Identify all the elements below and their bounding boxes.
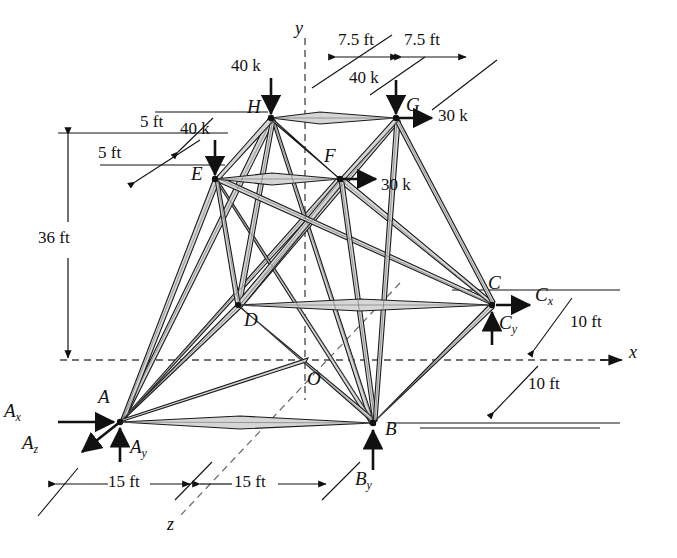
load-label-G-horizontal: 30 k	[438, 106, 468, 126]
joint-label-E: E	[191, 163, 203, 185]
dimension-label-5ft-upper: 5 ft	[140, 112, 163, 132]
dimension-label-15ft-right: 15 ft	[234, 472, 266, 492]
load-label-G: 40 k	[349, 68, 379, 88]
joint-markers	[117, 115, 495, 426]
joint-label-F: F	[324, 145, 336, 167]
truss-drawing	[0, 0, 677, 558]
dimension-label-15ft-left: 15 ft	[108, 472, 140, 492]
reaction-arrows	[58, 305, 530, 470]
joint-label-B: B	[385, 418, 397, 440]
reaction-label-By: By	[355, 468, 372, 493]
dimension-15ft	[38, 462, 360, 516]
reaction-label-Ay: Ay	[130, 436, 147, 461]
dimension-label-5ft-lower: 5 ft	[98, 143, 121, 163]
joint-label-G: G	[406, 94, 420, 116]
axis-label-y: y	[295, 18, 303, 39]
axis-label-z: z	[167, 514, 174, 535]
member-B-G	[373, 119, 400, 423]
dimension-label-10ft-upper: 10 ft	[570, 312, 602, 332]
axis-label-x: x	[629, 342, 637, 363]
joint-label-C: C	[488, 272, 501, 294]
reaction-label-Az: Az	[22, 432, 38, 457]
joint-label-H: H	[247, 96, 261, 118]
dimension-label-7p5ft-right: 7.5 ft	[404, 30, 440, 50]
dimension-label-10ft-lower: 10 ft	[528, 374, 560, 394]
load-label-H: 40 k	[231, 56, 261, 76]
joint-label-O: O	[307, 368, 321, 390]
member-F-G	[340, 118, 399, 180]
joint-label-A: A	[98, 386, 110, 408]
reaction-label-Cy: Cy	[499, 312, 517, 337]
reaction-label-Cx: Cx	[535, 284, 553, 309]
reaction-label-Ax: Ax	[4, 400, 21, 425]
load-label-F-horizontal: 30 k	[381, 175, 411, 195]
load-label-E: 40 k	[180, 119, 210, 139]
dimension-label-36ft: 36 ft	[38, 228, 70, 248]
figure-canvas: A B C D E F G H O x y z 40 k 40 k 40 k 3…	[0, 0, 677, 558]
dimension-label-7p5ft-left: 7.5 ft	[338, 30, 374, 50]
member-C-G	[395, 120, 495, 305]
joint-label-D: D	[244, 309, 258, 331]
